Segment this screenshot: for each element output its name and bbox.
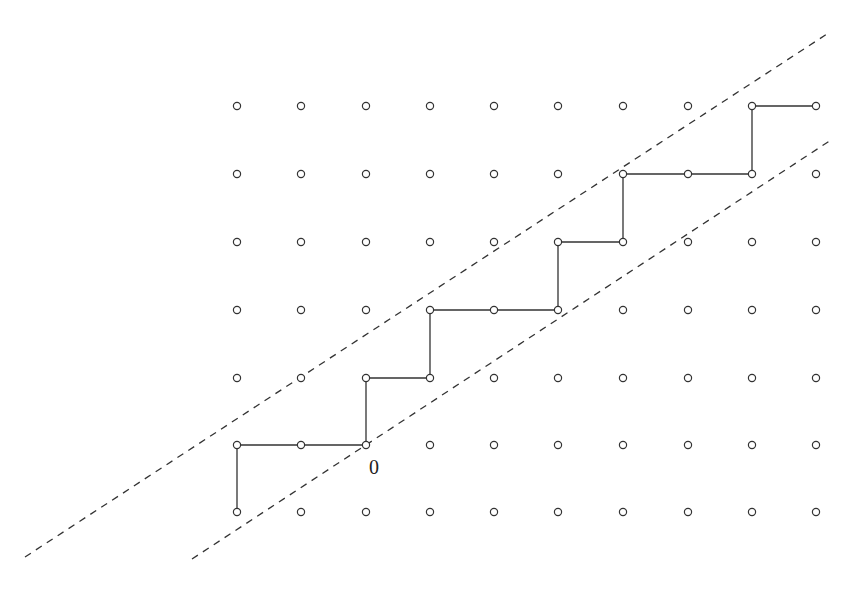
lattice-point bbox=[812, 508, 819, 515]
lattice-point bbox=[554, 102, 561, 109]
lattice-point bbox=[490, 374, 497, 381]
lattice-point bbox=[490, 170, 497, 177]
lattice-point bbox=[748, 306, 755, 313]
lattice-point bbox=[426, 238, 433, 245]
lattice-point bbox=[619, 508, 626, 515]
lower-boundary-line bbox=[192, 140, 831, 559]
lattice-point bbox=[297, 238, 304, 245]
lattice-point bbox=[748, 102, 755, 109]
lattice-point bbox=[748, 508, 755, 515]
lattice-point bbox=[233, 508, 240, 515]
lattice-points bbox=[233, 102, 819, 515]
lattice-point bbox=[297, 441, 304, 448]
lattice-point bbox=[684, 508, 691, 515]
lattice-point bbox=[426, 170, 433, 177]
lattice-point bbox=[619, 238, 626, 245]
lattice-point bbox=[619, 102, 626, 109]
lattice-point bbox=[554, 170, 561, 177]
lattice-point bbox=[297, 306, 304, 313]
lattice-point bbox=[619, 441, 626, 448]
lattice-point bbox=[426, 441, 433, 448]
lattice-point bbox=[362, 441, 369, 448]
lattice-point bbox=[426, 102, 433, 109]
lattice-point bbox=[233, 238, 240, 245]
lattice-point bbox=[619, 374, 626, 381]
lattice-point bbox=[684, 102, 691, 109]
lattice-point bbox=[362, 170, 369, 177]
lattice-point bbox=[812, 441, 819, 448]
lattice-point bbox=[490, 238, 497, 245]
lattice-point bbox=[490, 441, 497, 448]
upper-boundary-line bbox=[25, 32, 830, 557]
lattice-point bbox=[233, 102, 240, 109]
lattice-point bbox=[619, 306, 626, 313]
lattice-point bbox=[812, 170, 819, 177]
lattice-point bbox=[490, 102, 497, 109]
lattice-point bbox=[362, 508, 369, 515]
lattice-point bbox=[554, 441, 561, 448]
lattice-point bbox=[233, 441, 240, 448]
lattice-point bbox=[233, 170, 240, 177]
lattice-point bbox=[748, 441, 755, 448]
lattice-point bbox=[748, 170, 755, 177]
lattice-point bbox=[619, 170, 626, 177]
lattice-point bbox=[233, 306, 240, 313]
lattice-point bbox=[748, 374, 755, 381]
lattice-point bbox=[426, 374, 433, 381]
path-polyline bbox=[237, 106, 816, 512]
lattice-point bbox=[812, 238, 819, 245]
lattice-point bbox=[554, 306, 561, 313]
dashed-boundary-lines bbox=[25, 32, 831, 559]
lattice-point bbox=[362, 102, 369, 109]
lattice-diagram bbox=[0, 0, 853, 592]
lattice-point bbox=[426, 508, 433, 515]
lattice-point bbox=[490, 306, 497, 313]
lattice-point bbox=[297, 170, 304, 177]
lattice-point bbox=[684, 374, 691, 381]
lattice-point bbox=[233, 374, 240, 381]
lattice-point bbox=[297, 508, 304, 515]
lattice-point bbox=[426, 306, 433, 313]
lattice-point bbox=[684, 306, 691, 313]
lattice-point bbox=[297, 102, 304, 109]
lattice-point bbox=[362, 306, 369, 313]
lattice-point bbox=[554, 508, 561, 515]
lattice-point bbox=[812, 102, 819, 109]
lattice-point bbox=[554, 238, 561, 245]
lattice-point bbox=[684, 238, 691, 245]
lattice-point bbox=[297, 374, 304, 381]
lattice-point bbox=[812, 306, 819, 313]
lattice-point bbox=[362, 238, 369, 245]
lattice-point bbox=[812, 374, 819, 381]
lattice-point bbox=[684, 170, 691, 177]
lattice-point bbox=[554, 374, 561, 381]
origin-label: 0 bbox=[369, 456, 379, 479]
lattice-point bbox=[362, 374, 369, 381]
lattice-point bbox=[490, 508, 497, 515]
lattice-point bbox=[684, 441, 691, 448]
lattice-point bbox=[748, 238, 755, 245]
staircase-path bbox=[237, 106, 816, 512]
